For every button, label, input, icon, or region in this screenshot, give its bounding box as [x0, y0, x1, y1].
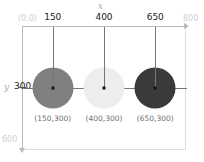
origin-label: (0,0) [18, 14, 37, 23]
coordinate-caption-1: (150,300) [34, 114, 71, 123]
diagram-root: x y (0,0) 800 600 300 150(150,300)400(40… [0, 0, 204, 162]
center-point-3 [154, 87, 157, 90]
x-guide-line-650 [155, 27, 156, 88]
y-max-label: 600 [2, 135, 17, 144]
x-max-label: 800 [183, 14, 198, 23]
center-point-2 [103, 87, 106, 90]
coordinate-caption-3: (650,300) [137, 114, 174, 123]
x-tick-label-400: 400 [95, 12, 112, 22]
y-axis-label: y [4, 82, 9, 92]
coordinate-caption-2: (400,300) [86, 114, 123, 123]
x-tick-label-150: 150 [44, 12, 61, 22]
x-axis-arrow-icon [184, 23, 189, 29]
x-guide-line-400 [104, 27, 105, 88]
center-point-1 [51, 87, 54, 90]
x-guide-line-150 [53, 27, 54, 88]
y-axis-arrow-icon [19, 148, 25, 153]
x-axis-label: x [98, 1, 103, 11]
y-tick-label-300: 300 [14, 81, 31, 91]
x-tick-label-650: 650 [147, 12, 164, 22]
